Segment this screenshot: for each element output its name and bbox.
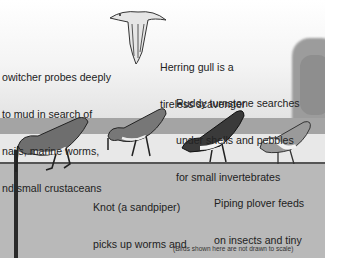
background-tree-shadow: [300, 55, 325, 115]
scale-footnote: (Birds shown here are not drawn to scale…: [173, 245, 293, 252]
herring-gull-icon: [108, 4, 168, 66]
piping-plover-label-line: Piping plover feeds: [214, 197, 304, 209]
dowitcher-label-line: to mud in search of: [2, 108, 111, 120]
knot-icon: [102, 106, 168, 162]
ruddy-turnstone-label-line: under shells and pebbles: [176, 134, 300, 146]
shorebird-illustration: owitcher probes deeply to mud in search …: [0, 0, 325, 258]
dowitcher-label-line: owitcher probes deeply: [2, 71, 111, 83]
dowitcher-label-line: nails, marine worms,: [2, 145, 111, 157]
knot-label-line: Knot (a sandpiper): [93, 201, 195, 213]
ruddy-turnstone-label-line: Ruddy turnstone searches: [176, 97, 300, 109]
